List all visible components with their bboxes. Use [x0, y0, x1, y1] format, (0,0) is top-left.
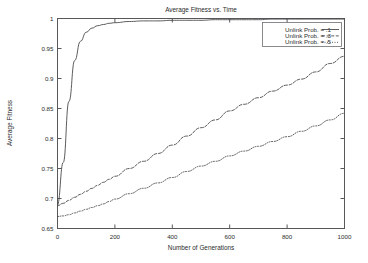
- chart-title: Average Fitness vs. Time: [165, 6, 237, 14]
- x-tick-label: 200: [110, 233, 121, 240]
- x-tick-label: 400: [167, 233, 178, 240]
- x-tick-label: 600: [225, 233, 236, 240]
- x-axis-tick-labels: 02004006008001000: [56, 233, 352, 240]
- average-fitness-line-chart: Average Fitness vs. Time 0.650.70.750.80…: [0, 0, 368, 263]
- y-tick-label: 0.7: [45, 195, 54, 202]
- axis-tick-marks: [58, 19, 345, 229]
- y-tick-label: 0.95: [41, 45, 54, 52]
- plot-frame: [58, 19, 345, 229]
- chart-container: Average Fitness vs. Time 0.650.70.750.80…: [0, 0, 368, 263]
- chart-legend: Unlink Prob. = .1Unlink Prob. = .3Unlink…: [263, 23, 342, 47]
- y-axis-title: Average Fitness: [6, 100, 14, 146]
- series-line-3: [58, 113, 345, 216]
- x-tick-label: 0: [56, 233, 60, 240]
- y-tick-label: 1: [50, 15, 54, 22]
- data-series-group: [58, 19, 345, 216]
- y-tick-label: 0.8: [45, 135, 54, 142]
- y-axis-tick-labels: 0.650.70.750.80.850.90.951: [41, 15, 54, 232]
- y-tick-label: 0.75: [41, 165, 54, 172]
- y-tick-label: 0.65: [41, 225, 54, 232]
- series-line-2: [58, 56, 345, 205]
- x-axis-title: Number of Generations: [168, 244, 234, 251]
- x-tick-label: 800: [282, 233, 293, 240]
- y-tick-label: 0.85: [41, 105, 54, 112]
- x-tick-label: 1000: [338, 233, 352, 240]
- series-line-1: [58, 19, 345, 206]
- legend-label-3: Unlink Prob. = .5: [285, 38, 331, 45]
- y-tick-label: 0.9: [45, 75, 54, 82]
